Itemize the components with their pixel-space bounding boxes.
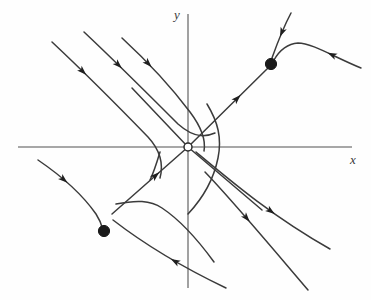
phase-portrait-canvas bbox=[0, 0, 371, 300]
flow-direction-arrow bbox=[169, 256, 181, 267]
saddle-point-marker bbox=[184, 143, 192, 151]
trajectory-curve bbox=[38, 160, 103, 230]
trajectory-curve bbox=[113, 220, 226, 288]
trajectory-curve bbox=[188, 68, 268, 147]
trajectory-curve bbox=[116, 201, 214, 262]
trajectory-curve bbox=[205, 172, 308, 290]
x-axis-label: x bbox=[350, 153, 356, 166]
trajectories-group bbox=[38, 13, 361, 290]
flow-direction-arrow bbox=[277, 27, 287, 38]
y-axis-label: y bbox=[174, 8, 180, 21]
trajectory-curve bbox=[132, 88, 188, 147]
trajectory-curve bbox=[274, 43, 361, 68]
phase-portrait-figure: y x bbox=[0, 0, 371, 300]
axes-group bbox=[18, 14, 352, 288]
stable-node-marker bbox=[265, 58, 276, 69]
stable-node-marker bbox=[98, 225, 109, 236]
flow-direction-arrow bbox=[326, 50, 338, 60]
